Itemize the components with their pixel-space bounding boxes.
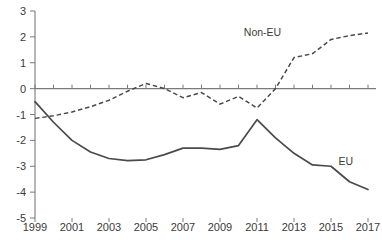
x-tick-label: 2017 (356, 221, 380, 233)
x-tick-label: 2001 (60, 221, 84, 233)
y-tick-label: 3 (20, 5, 26, 17)
x-tick-label: 2005 (134, 221, 158, 233)
x-tick-label: 2009 (208, 221, 232, 233)
y-axis-tick-labels: 3210-1-2-3-4-5 (16, 5, 26, 224)
x-tick-label: 2013 (282, 221, 306, 233)
chart-container: 3210-1-2-3-4-5 1999200120032005200720092… (0, 0, 382, 240)
y-tick-label: -2 (16, 134, 26, 146)
y-tick-label: -3 (16, 160, 26, 172)
series-line-non-eu (35, 33, 368, 118)
y-tick-label: -4 (16, 186, 26, 198)
y-tick-label: 1 (20, 57, 26, 69)
x-axis-tick-marks (35, 85, 368, 222)
y-axis-tick-marks (30, 11, 35, 218)
x-tick-label: 2011 (245, 221, 269, 233)
x-tick-label: 2003 (97, 221, 121, 233)
y-tick-label: 2 (20, 31, 26, 43)
x-tick-label: 2007 (171, 221, 195, 233)
x-tick-label: 2015 (319, 221, 343, 233)
series-line-eu (35, 102, 368, 190)
y-tick-label: 0 (20, 83, 26, 95)
y-tick-label: -1 (16, 109, 26, 121)
x-axis-tick-labels: 1999200120032005200720092011201320152017 (23, 221, 380, 233)
series-label-non-eu: Non-EU (244, 26, 281, 38)
series-label-eu: EU (339, 155, 354, 167)
x-tick-label: 1999 (23, 221, 47, 233)
series-annotations: EUNon-EU (244, 26, 353, 167)
series-lines (35, 33, 368, 190)
line-chart: 3210-1-2-3-4-5 1999200120032005200720092… (0, 0, 382, 240)
